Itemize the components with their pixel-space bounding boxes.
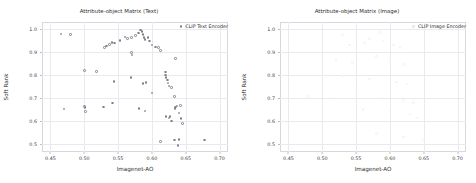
data-point bbox=[147, 36, 150, 39]
data-point bbox=[392, 44, 395, 47]
data-point bbox=[389, 57, 392, 60]
y-tick-mark bbox=[278, 98, 280, 99]
data-point bbox=[170, 86, 173, 89]
x-axis-label-image: Imagenet-AO bbox=[280, 166, 466, 172]
axis-spine-bottom bbox=[280, 151, 466, 152]
data-point bbox=[375, 55, 378, 58]
data-point bbox=[113, 80, 116, 83]
data-point bbox=[402, 63, 405, 66]
gridline-horizontal bbox=[280, 144, 466, 145]
gridline-vertical bbox=[50, 22, 51, 152]
x-tick-mark bbox=[389, 152, 390, 154]
y-tick-label: 1.0 bbox=[22, 26, 37, 31]
data-point bbox=[178, 112, 181, 115]
x-tick-label: 0.65 bbox=[418, 156, 429, 161]
y-tick-mark bbox=[278, 121, 280, 122]
data-point bbox=[113, 42, 116, 45]
data-point bbox=[180, 117, 183, 120]
legend-label-image: CLIP Image Encoder bbox=[418, 24, 466, 29]
data-point bbox=[138, 107, 141, 110]
gridline-horizontal bbox=[280, 29, 466, 30]
y-tick-label: 1.0 bbox=[260, 26, 275, 31]
y-tick-label: 0.6 bbox=[260, 118, 275, 123]
y-tick-label: 0.9 bbox=[260, 49, 275, 54]
data-point bbox=[351, 61, 354, 64]
x-tick-mark bbox=[322, 152, 323, 154]
data-point bbox=[111, 102, 114, 105]
data-point bbox=[144, 110, 147, 113]
x-tick-label: 0.50 bbox=[79, 156, 90, 161]
data-point bbox=[203, 139, 206, 142]
data-point bbox=[176, 105, 179, 108]
y-tick-mark bbox=[40, 98, 42, 99]
data-point bbox=[84, 106, 87, 109]
axis-spine-top bbox=[280, 22, 466, 23]
axis-spine-top bbox=[42, 22, 228, 23]
data-point bbox=[406, 83, 409, 86]
y-tick-label: 0.6 bbox=[22, 118, 37, 123]
data-point bbox=[137, 32, 140, 35]
data-point bbox=[102, 106, 105, 109]
gridline-vertical bbox=[356, 22, 357, 152]
y-axis-label-text: Soft Rank bbox=[3, 74, 9, 101]
y-tick-mark bbox=[278, 75, 280, 76]
panel-title-image: Attribute-object Matrix (Image) bbox=[238, 8, 476, 14]
legend-marker-icon bbox=[180, 25, 183, 28]
data-point bbox=[131, 54, 134, 57]
data-point bbox=[173, 95, 176, 98]
gridline-vertical bbox=[186, 22, 187, 152]
gridline-vertical bbox=[424, 22, 425, 152]
gridline-vertical bbox=[288, 22, 289, 152]
gridline-vertical bbox=[84, 22, 85, 152]
y-tick-label: 0.7 bbox=[260, 95, 275, 100]
y-tick-mark bbox=[40, 144, 42, 145]
y-axis-label-image: Soft Rank bbox=[241, 74, 247, 101]
data-point bbox=[60, 33, 63, 36]
axis-spine-left bbox=[42, 22, 43, 152]
x-tick-label: 0.70 bbox=[452, 156, 463, 161]
data-point bbox=[363, 41, 366, 44]
y-tick-mark bbox=[40, 52, 42, 53]
x-tick-mark bbox=[457, 152, 458, 154]
panel-image-encoder: Attribute-object Matrix (Image) Imagenet… bbox=[238, 0, 476, 183]
data-point bbox=[126, 37, 129, 40]
y-tick-label: 0.5 bbox=[260, 141, 275, 146]
x-tick-mark bbox=[50, 152, 51, 154]
gridline-horizontal bbox=[42, 75, 228, 76]
x-tick-mark bbox=[356, 152, 357, 154]
data-point bbox=[130, 76, 133, 79]
data-point bbox=[355, 35, 358, 38]
gridline-vertical bbox=[220, 22, 221, 152]
data-point bbox=[179, 104, 182, 107]
data-point bbox=[108, 43, 111, 46]
y-tick-label: 0.8 bbox=[260, 72, 275, 77]
data-point bbox=[148, 40, 151, 43]
axis-spine-bottom bbox=[42, 151, 228, 152]
y-tick-mark bbox=[40, 121, 42, 122]
data-point bbox=[181, 122, 184, 125]
y-tick-label: 0.9 bbox=[22, 49, 37, 54]
x-tick-label: 0.65 bbox=[180, 156, 191, 161]
x-tick-mark bbox=[423, 152, 424, 154]
plot-area-image bbox=[280, 22, 466, 152]
gridline-horizontal bbox=[42, 144, 228, 145]
data-point bbox=[178, 138, 181, 141]
gridline-horizontal bbox=[42, 29, 228, 30]
data-point bbox=[375, 132, 378, 135]
panel-title-text: Attribute-object Matrix (Text) bbox=[0, 8, 238, 14]
data-point bbox=[145, 81, 148, 84]
x-tick-label: 0.55 bbox=[351, 156, 362, 161]
data-point bbox=[382, 40, 385, 43]
y-tick-mark bbox=[40, 75, 42, 76]
y-tick-label: 0.5 bbox=[22, 141, 37, 146]
data-point bbox=[154, 46, 157, 49]
x-tick-label: 0.45 bbox=[283, 156, 294, 161]
data-point bbox=[412, 101, 415, 104]
data-point bbox=[341, 75, 344, 78]
gridline-vertical bbox=[152, 22, 153, 152]
data-point bbox=[335, 59, 338, 62]
data-point bbox=[402, 136, 405, 139]
y-tick-mark bbox=[278, 52, 280, 53]
data-point bbox=[63, 108, 66, 111]
y-tick-mark bbox=[278, 144, 280, 145]
